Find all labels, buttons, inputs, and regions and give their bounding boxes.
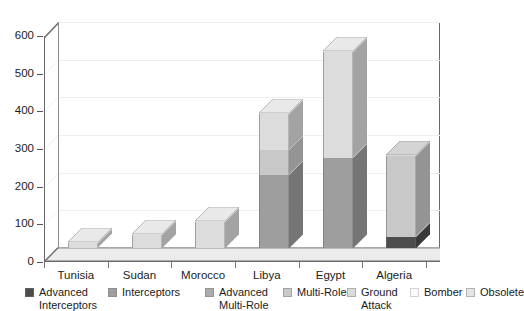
legend-item[interactable]: Advanced Multi-Role [205,286,269,311]
bar-segment[interactable] [323,158,353,248]
bar-segment-face [68,243,98,248]
x-axis-tick-mark [362,262,363,268]
gridline-depth-riser [44,97,59,112]
bar-segment-face [259,150,289,174]
bar-segment[interactable] [259,150,289,174]
bar-segment-face [323,52,353,157]
legend-color-swatch [347,288,356,297]
y-axis-tick-label: 0 [0,256,34,268]
legend-color-swatch [108,288,117,297]
y-axis-line-back [58,22,59,248]
y-axis-tick-label: 300 [0,143,34,155]
gridline [58,135,440,136]
bar-segment-face [323,158,353,248]
plot-area [44,22,440,262]
bar-column[interactable] [386,22,416,262]
y-axis-tick-label: 400 [0,105,34,117]
legend-item[interactable]: Multi-Role [283,286,347,299]
bar-segment-side [416,142,430,236]
legend-item[interactable]: Interceptors [108,286,180,299]
y-axis-tick-label: 500 [0,68,34,80]
bar-segment-face [132,235,162,248]
legend-label: Obsolete [480,286,524,299]
legend-color-swatch [205,288,214,297]
bar-segment[interactable] [386,156,416,236]
legend-label: Advanced Interceptors [39,286,97,311]
gridline [58,210,440,211]
gridline [58,173,440,174]
y-axis-tick-label: 200 [0,181,34,193]
y-axis-tick-mark [37,111,43,112]
bar-top-face [68,228,112,243]
gridline-depth-riser [44,173,59,188]
bar-column[interactable] [195,22,225,262]
bar-segment-face [259,114,289,150]
bar-segment-face [195,222,225,248]
legend-color-swatch [410,288,419,297]
y-axis-tick-label: 100 [0,218,34,230]
gridline [58,97,440,98]
bar-segment[interactable] [259,114,289,150]
legend-item[interactable]: Bomber [410,286,463,299]
legend-color-swatch [25,288,34,297]
y-axis-tick-mark [37,262,43,263]
bar-top-face [195,207,239,222]
bar-top-face [323,37,367,52]
y-axis: 6005004003002001000 [0,0,44,311]
gridline-depth-riser [44,210,59,225]
x-axis-tick-mark [108,262,109,268]
bar-segment-side [353,38,367,157]
legend-color-swatch [283,288,292,297]
legend-item[interactable]: Obsolete [466,286,524,299]
gridline [58,22,440,23]
y-axis-tick-mark [37,187,43,188]
legend-color-swatch [466,288,475,297]
bar-segment[interactable] [259,175,289,248]
legend-label: Multi-Role [297,286,347,299]
y-axis-tick-mark [37,224,43,225]
gridline [58,60,440,61]
bar-column[interactable] [259,22,289,262]
bar-top-face [386,141,430,156]
bar-segment[interactable] [323,52,353,157]
bar-segment[interactable] [386,237,416,248]
legend-item[interactable]: Ground Attack [347,286,398,311]
bar-segment-side [353,144,367,248]
x-axis-tick-label: Algeria [352,269,436,282]
bar-segment-face [386,156,416,236]
legend-label: Ground Attack [361,286,398,311]
legend-label: Advanced Multi-Role [219,286,269,311]
y-axis-tick-mark [37,74,43,75]
x-axis-tick-mark [299,262,300,268]
y-axis-tick-label: 600 [0,30,34,42]
bar-top-face [132,220,176,235]
y-axis-tick-mark [37,149,43,150]
bar-column[interactable] [68,22,98,262]
plot-floor [44,247,440,262]
y-axis-line-front [44,36,45,262]
bar-segment-face [386,237,416,248]
bar-segment[interactable] [68,243,98,248]
legend-label: Interceptors [122,286,180,299]
bar-segment-face [259,175,289,248]
bar-column[interactable] [132,22,162,262]
legend-label: Bomber [424,286,463,299]
y-axis-tick-mark [37,36,43,37]
x-axis-tick-mark [171,262,172,268]
gridline-depth-riser [44,135,59,150]
bar-top-face [259,99,303,114]
x-axis-tick-mark [235,262,236,268]
bar-segment[interactable] [132,235,162,248]
bar-segment[interactable] [195,222,225,248]
x-axis-tick-mark [426,262,427,268]
bar-column[interactable] [323,22,353,262]
legend-item[interactable]: Advanced Interceptors [25,286,97,311]
gridline-depth-riser [44,60,59,75]
x-axis-tick-mark [44,262,45,268]
